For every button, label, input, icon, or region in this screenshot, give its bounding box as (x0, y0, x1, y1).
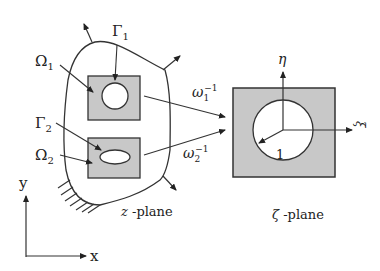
hole-gamma1 (102, 83, 128, 109)
hole-gamma2 (100, 150, 130, 164)
mapping-arrow-1 (144, 96, 225, 117)
label-gamma1: Γ1 (112, 22, 129, 42)
label-omega2-inverse: ω2−1 (183, 144, 208, 164)
load-arrow-top (84, 24, 92, 42)
body-outline (64, 41, 170, 205)
load-arrow-right (163, 56, 180, 70)
label-z-plane: z -plane (120, 204, 173, 219)
label-x-axis: x (90, 247, 99, 265)
label-omega1-inverse: ω1−1 (192, 83, 217, 103)
conformal-mapping-diagram: Γ1 Ω1 Γ2 Ω2 ω1−1 ω2−1 η ξ 1 z -plane ζ -… (0, 0, 380, 271)
label-y-axis: y (18, 174, 28, 192)
label-xi: ξ (353, 121, 367, 129)
label-omega1: Ω1 (35, 52, 54, 72)
pointer-gamma2 (56, 123, 101, 150)
load-arrow-bottom (163, 176, 176, 190)
label-omega2: Ω2 (35, 146, 54, 166)
label-zeta-plane: ζ -plane (272, 207, 324, 222)
label-eta: η (278, 51, 287, 67)
label-gamma2: Γ2 (35, 114, 52, 134)
label-radius: 1 (276, 147, 284, 162)
pointer-gamma1 (115, 45, 117, 80)
